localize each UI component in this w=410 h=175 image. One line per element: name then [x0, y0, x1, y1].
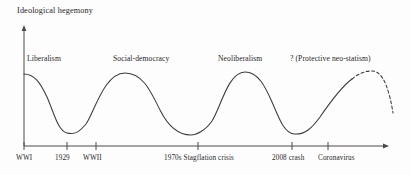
- hegemony-wave-solid: [24, 72, 352, 135]
- ideological-hegemony-chart: [0, 0, 410, 175]
- phase-label-liberalism: Liberalism: [27, 55, 61, 63]
- figure-canvas: Ideological hegemony Liberalism Social-d…: [0, 0, 410, 175]
- x-tick-label-1929: 1929: [55, 155, 70, 162]
- phase-label-protective-neo-statism: ? (Protective neo-statism): [290, 55, 371, 63]
- phase-label-neoliberalism: Neoliberalism: [218, 55, 262, 63]
- x-axis-arrow-icon: [383, 144, 389, 149]
- chart-title: Ideological hegemony: [17, 7, 93, 15]
- x-tick-label-2008-crash: 2008 crash: [272, 155, 304, 162]
- x-tick-label-coronavirus: Coronavirus: [318, 155, 355, 162]
- y-axis-arrow-icon: [22, 25, 27, 31]
- y-axis: [22, 25, 27, 146]
- x-tick-label-wwi: WWI: [16, 155, 32, 162]
- hegemony-wave-dashed-projection: [352, 71, 393, 113]
- phase-label-social-democracy: Social-democracy: [113, 55, 169, 63]
- x-tick-label-wwii: WWII: [83, 155, 102, 162]
- x-axis: [24, 144, 389, 149]
- x-tick-label-stagflation-crisis: 1970s Stagflation crisis: [164, 155, 234, 162]
